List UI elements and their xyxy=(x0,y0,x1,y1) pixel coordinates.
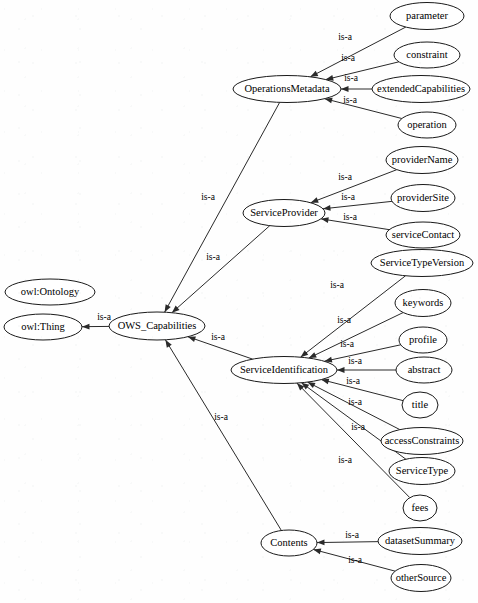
edge-label: is-a xyxy=(346,376,361,386)
node-parameter[interactable]: parameter xyxy=(390,3,464,30)
edge-e-abs-svcid: is-a xyxy=(337,356,396,373)
node-label: constraint xyxy=(406,49,447,60)
edge-label: is-a xyxy=(206,252,221,262)
edge-e-ows-thing: is-a xyxy=(82,312,112,329)
edge-label: is-a xyxy=(348,555,363,565)
edge-e-svcid-ows: is-a xyxy=(188,332,253,359)
edge-label: is-a xyxy=(330,280,345,290)
arrow-head-icon xyxy=(337,367,345,373)
edge-label: is-a xyxy=(341,53,356,63)
edge-e-svcprov-ows: is-a xyxy=(172,226,270,313)
node-label: profile xyxy=(409,334,437,345)
arrow-head-icon xyxy=(82,324,90,330)
arrow-head-icon xyxy=(311,197,319,202)
node-operation[interactable]: operation xyxy=(398,112,456,138)
node-abstract[interactable]: abstract xyxy=(396,357,452,383)
edge-e-svccont-sp: is-a xyxy=(321,212,389,229)
node-label: parameter xyxy=(406,10,448,21)
node-service_type_version[interactable]: ServiceTypeVersion xyxy=(371,250,473,277)
edge-label: is-a xyxy=(348,397,363,407)
node-access_constraints[interactable]: accessConstraints xyxy=(381,428,463,455)
arrow-head-icon xyxy=(313,549,321,555)
nodes-layer: owl:Ontologyowl:ThingOWS_CapabilitiesOpe… xyxy=(4,3,473,592)
node-fees[interactable]: fees xyxy=(403,495,437,521)
edge-e-extcap-opsmd: is-a xyxy=(341,73,372,92)
edge-line xyxy=(309,313,403,359)
arrow-head-icon xyxy=(165,304,171,312)
node-keywords[interactable]: keywords xyxy=(395,290,451,317)
arrow-head-icon xyxy=(301,350,309,357)
node-other_source[interactable]: otherSource xyxy=(391,565,451,592)
node-operations_metadata[interactable]: OperationsMetadata xyxy=(233,76,341,103)
node-label: providerName xyxy=(392,154,453,165)
node-label: fees xyxy=(412,502,429,513)
arrow-head-icon xyxy=(309,352,317,358)
edge-e-param-opsmd: is-a xyxy=(310,27,405,77)
edge-e-provsite-sp: is-a xyxy=(323,192,392,211)
node-label: title xyxy=(412,399,429,410)
node-constraint[interactable]: constraint xyxy=(394,42,460,68)
edge-line xyxy=(325,99,402,119)
edge-label: is-a xyxy=(211,332,226,342)
edge-label: is-a xyxy=(348,356,363,366)
edge-label: is-a xyxy=(343,212,358,222)
edge-e-title-svcid: is-a xyxy=(321,376,403,400)
edge-line xyxy=(324,345,400,361)
node-label: ServiceTypeVersion xyxy=(380,257,465,268)
node-label: abstract xyxy=(408,364,441,375)
node-provider_name[interactable]: providerName xyxy=(386,147,458,174)
arrow-head-icon xyxy=(317,540,325,546)
edge-label: is-a xyxy=(344,73,359,83)
node-ows_capabilities[interactable]: OWS_Capabilities xyxy=(109,312,205,340)
arrow-head-icon xyxy=(188,336,196,341)
node-label: OperationsMetadata xyxy=(244,83,329,94)
node-dataset_summary[interactable]: datasetSummary xyxy=(378,528,462,555)
arrow-head-icon xyxy=(341,86,349,92)
graph-svg: is-ais-ais-ais-ais-ais-ais-ais-ais-ais-a… xyxy=(0,0,478,603)
node-label: ServiceType xyxy=(396,465,449,476)
edge-label: is-a xyxy=(343,95,358,105)
edge-label: is-a xyxy=(341,192,356,202)
node-service_identification[interactable]: ServiceIdentification xyxy=(231,357,337,384)
node-title[interactable]: title xyxy=(402,392,438,418)
node-label: accessConstraints xyxy=(385,435,460,446)
edge-e-prof-svcid: is-a xyxy=(324,339,400,362)
node-label: Contents xyxy=(270,537,307,548)
node-owl_ontology[interactable]: owl:Ontology xyxy=(5,279,95,305)
node-owl_thing[interactable]: owl:Thing xyxy=(4,314,82,340)
edge-label: is-a xyxy=(340,339,355,349)
node-service_provider[interactable]: ServiceProvider xyxy=(243,200,325,227)
edge-e-constr-opsmd: is-a xyxy=(326,53,399,80)
edge-e-keyw-svcid: is-a xyxy=(309,313,403,359)
node-label: ServiceProvider xyxy=(250,207,318,218)
node-label: serviceContact xyxy=(392,229,454,240)
node-service_type[interactable]: ServiceType xyxy=(389,458,455,485)
edge-label: is-a xyxy=(345,530,360,540)
arrow-head-icon xyxy=(165,340,171,348)
node-label: owl:Ontology xyxy=(21,286,80,297)
edge-line xyxy=(323,201,392,208)
node-extended_capabilities[interactable]: extendedCapabilities xyxy=(372,76,470,103)
node-label: owl:Thing xyxy=(21,321,65,332)
edge-line xyxy=(172,226,270,313)
node-provider_site[interactable]: providerSite xyxy=(391,185,455,212)
node-contents[interactable]: Contents xyxy=(261,530,317,556)
node-label: keywords xyxy=(403,297,444,308)
node-label: otherSource xyxy=(396,572,447,583)
node-profile[interactable]: profile xyxy=(399,327,447,353)
edge-e-os-contents: is-a xyxy=(313,549,395,572)
edge-label: is-a xyxy=(338,455,353,465)
edge-line xyxy=(326,62,399,80)
edge-line xyxy=(310,27,405,77)
edge-label: is-a xyxy=(97,312,112,322)
edge-line xyxy=(317,542,378,543)
edge-label: is-a xyxy=(338,32,353,42)
edge-label: is-a xyxy=(201,192,216,202)
edge-label: is-a xyxy=(214,412,229,422)
edge-label: is-a xyxy=(351,422,366,432)
node-label: datasetSummary xyxy=(385,535,456,546)
node-label: providerSite xyxy=(397,192,449,203)
node-service_contact[interactable]: serviceContact xyxy=(386,222,460,248)
edge-line xyxy=(321,380,403,401)
node-label: extendedCapabilities xyxy=(377,83,465,94)
